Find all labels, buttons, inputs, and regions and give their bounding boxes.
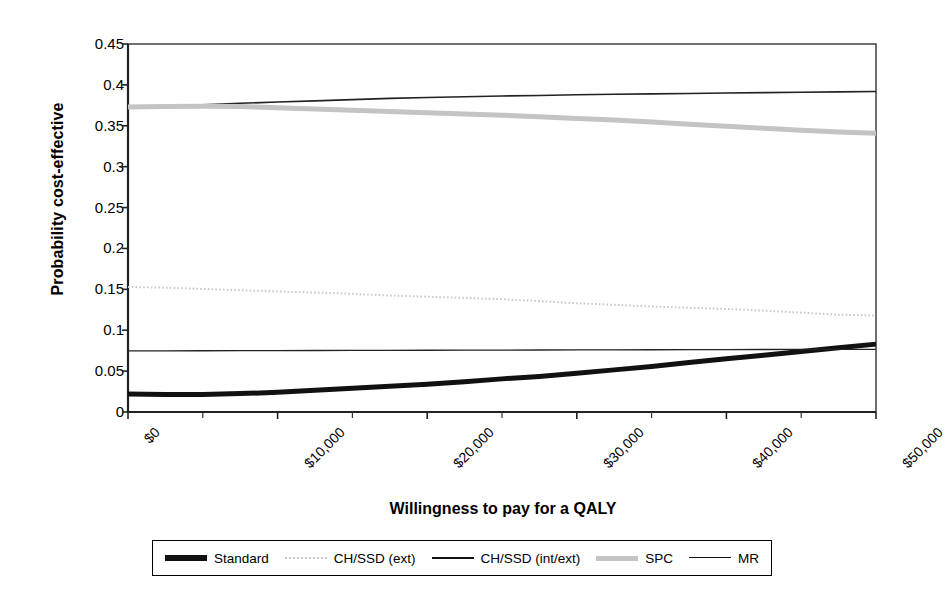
x-tick-label: $30,000 [600,424,647,471]
x-tick-label: $20,000 [450,424,497,471]
legend-entry: CH/SSD (ext) [285,551,416,566]
legend-label: SPC [645,551,673,566]
legend-entry: CH/SSD (int/ext) [432,551,581,566]
chart-legend: StandardCH/SSD (ext)CH/SSD (int/ext)SPCM… [152,540,772,576]
x-tick-label: $0 [141,424,163,446]
legend-label: MR [738,551,759,566]
x-tick-label: $40,000 [749,424,796,471]
legend-swatch-chssd-intext-icon [432,553,474,563]
legend-entry: SPC [596,551,673,566]
legend-label: Standard [214,551,269,566]
legend-swatch-mr-icon [689,553,731,563]
legend-entry: MR [689,551,759,566]
legend-entry: Standard [165,551,269,566]
legend-swatch-spc-icon [596,553,638,563]
x-tick-label: $10,000 [300,424,347,471]
x-tick-label: $50,000 [899,424,946,471]
legend-swatch-chssd-ext-icon [285,553,327,563]
legend-label: CH/SSD (ext) [334,551,416,566]
legend-swatch-standard-icon [165,553,207,563]
legend-label: CH/SSD (int/ext) [481,551,581,566]
x-axis-title: Willingness to pay for a QALY [130,500,876,518]
